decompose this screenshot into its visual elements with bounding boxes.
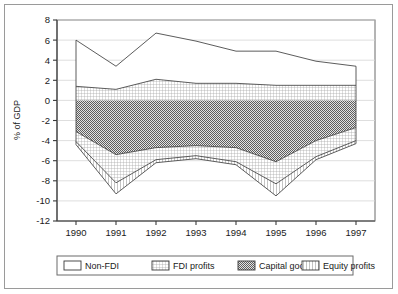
x-tick-labels: 19901991199219931994199519961997 [65, 227, 366, 238]
y-tick-labels: 86420-2-4-6-8-10-12 [36, 14, 50, 226]
y-tick-label: 6 [45, 35, 50, 46]
y-tick-label: -10 [36, 195, 50, 206]
chart-figure: 86420-2-4-6-8-10-12 19901991199219931994… [0, 0, 398, 294]
x-tick-label: 1996 [305, 227, 326, 238]
x-axis [57, 221, 375, 225]
y-tick-label: -2 [42, 115, 50, 126]
x-tick-label: 1990 [65, 227, 86, 238]
x-tick-label: 1992 [145, 227, 166, 238]
y-axis [53, 20, 57, 221]
x-tick-label: 1993 [185, 227, 206, 238]
stacked-area-chart: 86420-2-4-6-8-10-12 19901991199219931994… [0, 0, 398, 294]
x-tick-label: 1994 [225, 227, 246, 238]
legend-label-fdi-profits: FDI profits [173, 261, 215, 271]
y-tick-label: 0 [45, 95, 50, 106]
y-tick-label: -8 [42, 175, 50, 186]
legend-swatch-fdi-profits [152, 261, 169, 270]
x-tick-label: 1995 [265, 227, 286, 238]
y-tick-label: -6 [42, 155, 50, 166]
legend-label-non-fdi: Non-FDI [85, 261, 119, 271]
legend-swatch-non-fdi [64, 261, 81, 270]
y-tick-label: 4 [45, 55, 50, 66]
legend-swatch-equity-profits [302, 261, 319, 270]
y-tick-label: 2 [45, 75, 50, 86]
y-tick-label: -12 [36, 215, 50, 226]
x-tick-label: 1997 [345, 227, 366, 238]
legend-label-equity-profits: Equity profits [323, 261, 376, 271]
y-tick-label: 8 [45, 14, 50, 25]
y-tick-label: -4 [42, 135, 50, 146]
legend-swatch-capital-goods [238, 261, 255, 270]
y-axis-title: % of GDP [12, 100, 22, 140]
x-tick-label: 1991 [105, 227, 126, 238]
